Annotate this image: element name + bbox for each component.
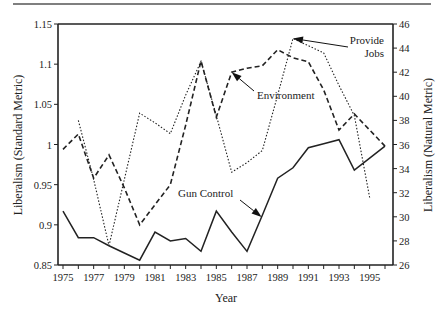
y2-tick-label: 44 (399, 43, 410, 54)
annotation-arrowhead-provide-jobs (293, 37, 303, 44)
y2-tick-label: 26 (399, 260, 410, 271)
annotations: Gun ControlEnvironmentProvideJobs (178, 34, 384, 217)
y-axis-title: Liberalism (Standard Metric) (11, 75, 25, 216)
series-layer (63, 38, 385, 260)
annotation-arrow-shaft-environment (239, 79, 254, 91)
y-tick-label: 0.85 (34, 260, 52, 271)
x-tick-label: 1977 (83, 272, 104, 283)
y2-tick-label: 30 (399, 212, 410, 223)
x-tick-label: 1981 (145, 272, 166, 283)
annotation-label-provide-jobs: Provide (350, 34, 384, 46)
axes: 1975197719791981198319851987198919911993… (34, 19, 411, 283)
y2-axis-title: Liberalism (Natural Metric) (421, 78, 435, 212)
annotation-arrow-shaft-gun-control (240, 200, 254, 211)
x-tick-label: 1983 (175, 272, 196, 283)
y-tick-label: 1.15 (34, 19, 52, 30)
y2-tick-label: 38 (399, 115, 410, 126)
y2-tick-label: 28 (399, 236, 410, 247)
x-tick-label: 1993 (329, 272, 350, 283)
x-tick-label: 1991 (298, 272, 319, 283)
x-tick-label: 1979 (114, 272, 135, 283)
annotation-label-environment: Environment (257, 89, 314, 101)
series-line-gun-control (63, 140, 385, 261)
y2-tick-label: 36 (399, 140, 410, 151)
x-tick-label: 1975 (53, 272, 74, 283)
annotation-arrowhead-gun-control (252, 208, 262, 217)
annotation-label-gun-control: Gun Control (178, 187, 233, 199)
y2-tick-label: 40 (399, 91, 410, 102)
x-tick-label: 1987 (237, 272, 258, 283)
x-tick-label: 1985 (206, 272, 227, 283)
y-tick-label: 1.05 (34, 99, 52, 110)
y2-tick-label: 42 (399, 67, 410, 78)
y-tick-label: 0.9 (39, 220, 52, 231)
y2-tick-label: 32 (399, 188, 410, 199)
y-tick-label: 1.1 (39, 59, 52, 70)
x-axis-title: Year (215, 291, 237, 305)
y2-tick-label: 46 (399, 19, 410, 30)
x-tick-label: 1989 (267, 272, 288, 283)
y-tick-label: 0.95 (34, 180, 52, 191)
y-tick-label: 1 (47, 140, 52, 151)
series-line-provide-jobs (78, 38, 369, 245)
annotation-label-provide-jobs: Jobs (364, 47, 384, 59)
x-tick-label: 1995 (359, 272, 380, 283)
line-chart: 1975197719791981198319851987198919911993… (0, 0, 443, 319)
y2-tick-label: 34 (399, 164, 410, 175)
annotation-arrowhead-environment (232, 72, 242, 81)
